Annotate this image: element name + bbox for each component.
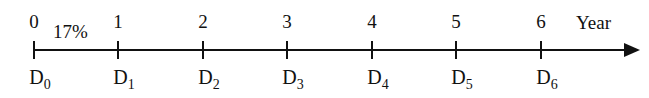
dividend-label: D1 bbox=[113, 67, 134, 92]
year-label: 1 bbox=[113, 12, 123, 31]
dividend-subscript: 0 bbox=[44, 77, 51, 92]
dividend-symbol: D bbox=[367, 66, 381, 88]
arrow-head-icon bbox=[624, 43, 640, 57]
dividend-subscript: 4 bbox=[382, 77, 389, 92]
dividend-symbol: D bbox=[536, 66, 550, 88]
dividend-label: D6 bbox=[536, 67, 557, 92]
dividend-symbol: D bbox=[282, 66, 296, 88]
year-label: 4 bbox=[367, 12, 377, 31]
year-label: 0 bbox=[29, 12, 39, 31]
dividend-label: D5 bbox=[451, 67, 472, 92]
dividend-symbol: D bbox=[451, 66, 465, 88]
dividend-subscript: 2 bbox=[213, 77, 220, 92]
dividend-symbol: D bbox=[113, 66, 127, 88]
dividend-label: D0 bbox=[29, 67, 50, 92]
dividend-symbol: D bbox=[198, 66, 212, 88]
year-label: 3 bbox=[282, 12, 292, 31]
dividend-subscript: 3 bbox=[297, 77, 304, 92]
dividend-subscript: 6 bbox=[551, 77, 558, 92]
axis-label-year: Year bbox=[576, 12, 611, 34]
dividend-label: D3 bbox=[282, 67, 303, 92]
year-label: 5 bbox=[451, 12, 461, 31]
interest-rate-label: 17% bbox=[53, 21, 88, 43]
year-label: 6 bbox=[536, 12, 546, 31]
dividend-subscript: 1 bbox=[128, 77, 135, 92]
dividend-label: D4 bbox=[367, 67, 388, 92]
dividend-symbol: D bbox=[29, 66, 43, 88]
dividend-label: D2 bbox=[198, 67, 219, 92]
dividend-subscript: 5 bbox=[466, 77, 473, 92]
year-label: 2 bbox=[198, 12, 208, 31]
